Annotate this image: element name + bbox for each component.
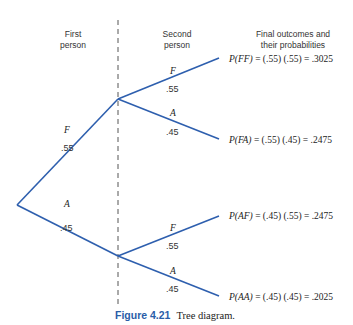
second-AA-letter: A: [170, 266, 176, 276]
second-FA-prob: .45: [166, 127, 179, 137]
first-A-letter: A: [64, 199, 70, 209]
outcome-FF-label: P(FF): [229, 54, 253, 64]
tree-diagram-figure: First person Second person Final outcome…: [0, 0, 353, 325]
outcome-AA-expression: = (.45) (.45) = .2025: [253, 292, 333, 302]
figure-number: Figure 4.21: [115, 309, 170, 321]
header-second-line2: person: [152, 40, 202, 51]
header-final-line1: Final outcomes and: [243, 29, 343, 40]
header-second-line1: Second: [152, 29, 202, 40]
first-F-letter: F: [64, 125, 70, 135]
outcome-AF-label: P(AF): [229, 211, 253, 221]
second-FF-letter: F: [170, 66, 176, 76]
header-first-line1: First: [48, 29, 98, 40]
second-AA-prob: .45: [166, 284, 179, 294]
second-FA-letter: A: [170, 108, 176, 118]
outcome-FF-expression: = (.55) (.55) = .3025: [253, 54, 333, 64]
outcome-AA-label: P(AA): [229, 292, 253, 302]
second-AF-letter: F: [170, 223, 176, 233]
outcome-FA: P(FA) = (.55) (.45) = .2475: [229, 135, 332, 145]
first-F-prob: .55: [61, 143, 74, 153]
header-first-person: First person: [48, 29, 98, 51]
header-final-line2: their probabilities: [243, 40, 343, 51]
outcome-FA-expression: = (.55) (.45) = .2475: [252, 135, 332, 145]
header-second-person: Second person: [152, 29, 202, 51]
second-FF-prob: .55: [166, 84, 179, 94]
outcome-AF-expression: = (.45) (.55) = .2475: [253, 211, 333, 221]
second-AF-prob: .55: [166, 241, 179, 251]
outcome-AA: P(AA) = (.45) (.45) = .2025: [229, 292, 333, 302]
outcome-FA-label: P(FA): [229, 135, 252, 145]
outcome-AF: P(AF) = (.45) (.55) = .2475: [229, 211, 333, 221]
figure-caption-text: Tree diagram.: [176, 310, 235, 321]
figure-caption: Figure 4.21Tree diagram.: [115, 305, 235, 323]
first-A-prob: .45: [60, 223, 73, 233]
header-final-outcomes: Final outcomes and their probabilities: [243, 29, 343, 51]
header-first-line2: person: [48, 40, 98, 51]
outcome-FF: P(FF) = (.55) (.55) = .3025: [229, 54, 333, 64]
